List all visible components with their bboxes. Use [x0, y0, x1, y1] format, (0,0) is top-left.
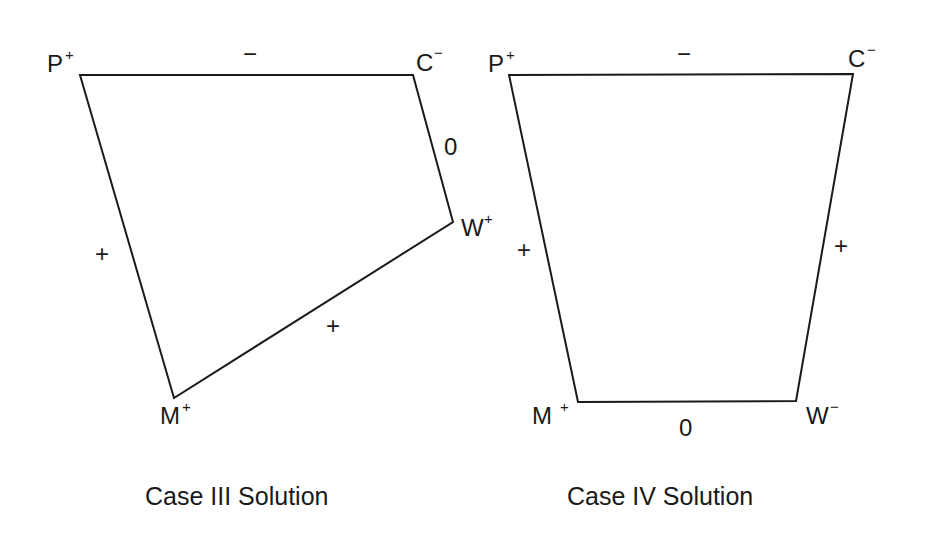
node-label: M [532, 402, 552, 429]
node-label: P [47, 50, 63, 77]
edge-sign-m-p: + [517, 236, 531, 263]
node-w: W − [806, 398, 839, 429]
case-iii-quadrilateral [80, 75, 453, 398]
edge-sign-w-m: 0 [679, 414, 692, 441]
node-label: W [461, 214, 484, 241]
diagram-canvas: P + C − W + M + − 0 + + Case III Solutio… [0, 0, 926, 541]
node-m: M + [532, 398, 569, 429]
case-iv-quadrilateral [509, 74, 853, 402]
node-label: C [416, 49, 433, 76]
edge-sign-c-w: + [834, 232, 848, 259]
case-iii-diagram: P + C − W + M + − 0 + + Case III Solutio… [47, 40, 493, 510]
node-c: C − [848, 41, 876, 72]
case-iv-diagram: P + C − W − M + − + 0 + Case IV Solution [488, 40, 876, 510]
node-sign: + [506, 46, 515, 63]
edge-sign-c-w: 0 [444, 133, 457, 160]
node-label: P [488, 50, 504, 77]
node-sign: + [560, 398, 569, 415]
case-iv-caption: Case IV Solution [567, 482, 753, 510]
node-p: P + [488, 46, 515, 77]
node-sign: − [830, 398, 839, 415]
node-sign: + [484, 210, 493, 227]
node-sign: − [434, 44, 443, 61]
node-w: W + [461, 210, 493, 241]
node-c: C − [416, 44, 443, 76]
edge-sign-w-m: + [326, 312, 340, 339]
edge-sign-p-c: − [677, 40, 691, 67]
case-iii-caption: Case III Solution [145, 482, 328, 510]
node-label: W [806, 402, 829, 429]
node-label: C [848, 45, 865, 72]
node-p: P + [47, 46, 74, 77]
node-sign: + [182, 398, 191, 415]
edge-sign-m-p: + [95, 240, 109, 267]
node-sign: − [867, 41, 876, 58]
node-sign: + [65, 46, 74, 63]
node-label: M [160, 402, 180, 429]
node-m: M + [160, 398, 191, 429]
edge-sign-p-c: − [243, 40, 257, 67]
